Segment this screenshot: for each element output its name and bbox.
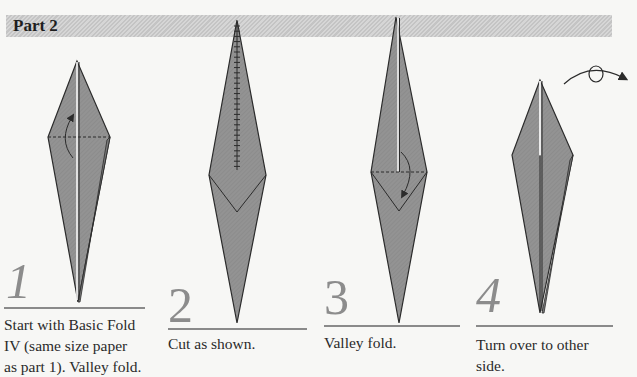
step-4-divider — [476, 325, 613, 327]
step-1-caption: Start with Basic Fold IV (same size pape… — [4, 314, 141, 377]
step-number-4: 4 — [476, 270, 501, 320]
caption-line: Turn over to other — [476, 334, 589, 355]
turn-over-arrow-icon — [564, 66, 624, 84]
caption-line: Valley fold. — [324, 332, 396, 353]
caption-line: side. — [476, 355, 589, 376]
figure-step-3 — [371, 17, 427, 323]
step-4-caption: Turn over to other side. — [476, 334, 589, 376]
step-number-3: 3 — [324, 272, 349, 322]
caption-line: Start with Basic Fold — [4, 314, 141, 335]
caption-line: Cut as shown. — [168, 333, 255, 354]
step-number-2: 2 — [168, 280, 193, 330]
step-3-caption: Valley fold. — [324, 332, 396, 353]
step-1-divider — [4, 307, 145, 309]
step-2-caption: Cut as shown. — [168, 333, 255, 354]
figure-step-1 — [48, 61, 110, 302]
step-2-divider — [168, 328, 307, 330]
caption-line: as part 1). Valley fold. — [4, 356, 141, 377]
caption-line: IV (same size paper — [4, 335, 141, 356]
step-number-1: 1 — [6, 256, 31, 306]
figure-step-4 — [512, 66, 624, 313]
figure-step-2 — [209, 20, 266, 323]
step-3-divider — [324, 325, 460, 327]
